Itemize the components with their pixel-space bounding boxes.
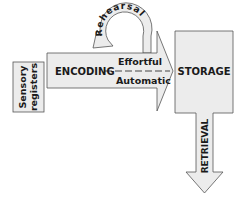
storage-retrieval: STORAGE RETRIEVAL: [175, 31, 233, 193]
sensory-label-line1: Sensory: [17, 65, 28, 109]
sensory-registers-box: Sensory registers: [13, 62, 44, 112]
memory-diagram: Sensory registers Rehearsal ENCODING Eff…: [0, 0, 242, 208]
retrieval-label: RETRIEVAL: [200, 118, 210, 173]
storage-label: STORAGE: [177, 66, 230, 77]
encoding-label: ENCODING: [55, 66, 115, 77]
rehearsal-loop-arrow: Rehearsal: [93, 1, 152, 53]
sensory-label-line2: registers: [28, 63, 39, 112]
effortful-label: Effortful: [118, 56, 162, 67]
automatic-label: Automatic: [116, 75, 171, 86]
